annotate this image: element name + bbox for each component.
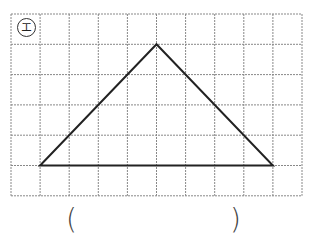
problem-label-badge: エ <box>17 18 36 37</box>
open-paren: ( <box>66 203 77 236</box>
grid-paper <box>0 0 309 240</box>
close-paren: ) <box>230 203 241 236</box>
problem-figure: エ ( ) <box>0 0 309 240</box>
answer-field[interactable] <box>82 207 228 235</box>
